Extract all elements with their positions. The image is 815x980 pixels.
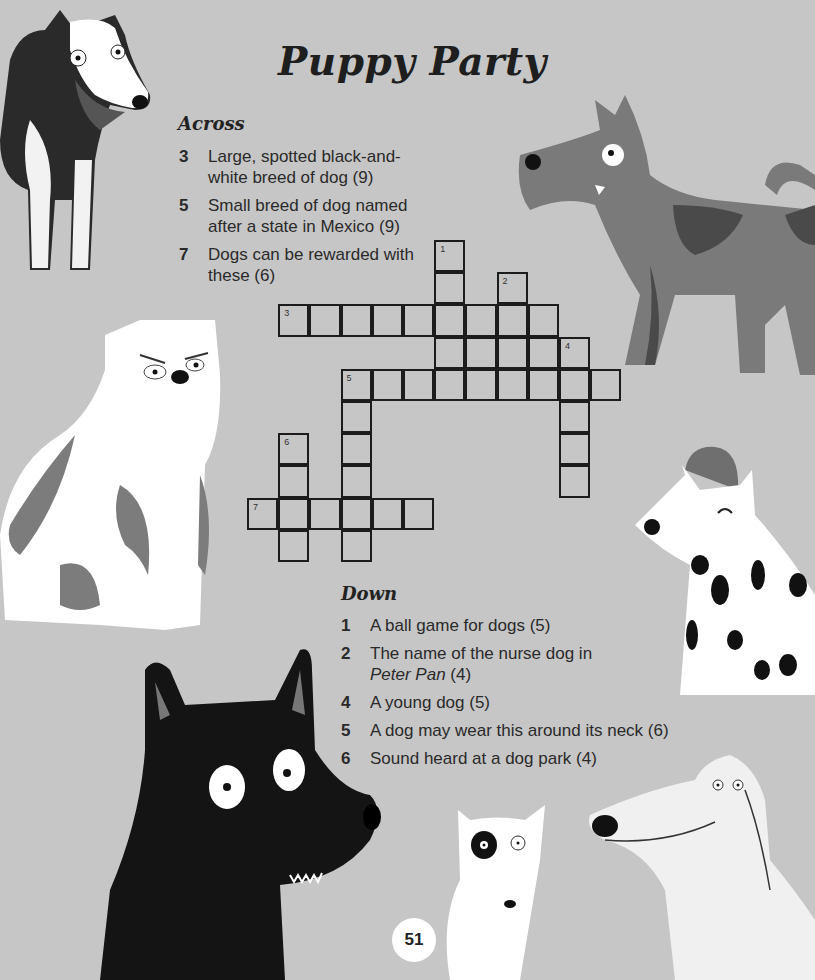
crossword-cell[interactable] xyxy=(341,530,372,562)
crossword-cell[interactable]: 4 xyxy=(559,337,590,369)
page-number-badge: 51 xyxy=(392,918,436,962)
down-clue-2: 2 The name of the nurse dog in Peter Pan… xyxy=(341,643,681,685)
cell-clue-number: 5 xyxy=(347,373,352,383)
crossword-cell[interactable]: 3 xyxy=(278,304,309,336)
clue-number: 2 xyxy=(341,643,370,685)
clue-text: A ball game for dogs (5) xyxy=(370,615,550,636)
across-clue-5: 5 Small breed of dog named after a state… xyxy=(179,195,424,237)
cell-clue-number: 4 xyxy=(565,341,570,351)
crossword-cell[interactable] xyxy=(434,369,465,401)
crossword-cell[interactable] xyxy=(559,433,590,465)
bulldog-illustration xyxy=(0,315,225,635)
clue-text-prefix: The name of the nurse dog in xyxy=(370,644,592,663)
crossword-cell[interactable] xyxy=(278,465,309,497)
crossword-cell[interactable] xyxy=(341,465,372,497)
crossword-cell[interactable] xyxy=(559,369,590,401)
clue-text: Large, spotted black-and-white breed of … xyxy=(208,146,424,188)
clue-number: 7 xyxy=(179,244,208,286)
clue-text: A young dog (5) xyxy=(370,692,490,713)
crossword-cell[interactable] xyxy=(341,498,372,530)
crossword-cell[interactable] xyxy=(528,369,559,401)
clue-number: 4 xyxy=(341,692,370,713)
crossword-cell[interactable] xyxy=(403,369,434,401)
crossword-cell[interactable] xyxy=(434,272,465,304)
crossword-cell[interactable] xyxy=(497,337,528,369)
clue-number: 6 xyxy=(341,748,370,769)
crossword-cell[interactable] xyxy=(559,401,590,433)
clue-text-italic-title: Peter Pan xyxy=(370,665,446,684)
down-clue-1: 1 A ball game for dogs (5) xyxy=(341,615,681,636)
crossword-cell[interactable] xyxy=(434,337,465,369)
crossword-cell[interactable] xyxy=(278,498,309,530)
bull-terrier-dog-illustration xyxy=(440,800,560,980)
crossword-cell[interactable] xyxy=(403,304,434,336)
crossword-grid: 1234567 xyxy=(248,241,623,564)
cell-clue-number: 6 xyxy=(284,437,289,447)
crossword-cell[interactable] xyxy=(465,304,496,336)
clue-number: 3 xyxy=(179,146,208,188)
crossword-cell[interactable] xyxy=(497,369,528,401)
down-clue-list: 1 A ball game for dogs (5) 2 The name of… xyxy=(341,615,681,776)
crossword-cell[interactable] xyxy=(434,304,465,336)
cell-clue-number: 1 xyxy=(440,244,445,254)
clue-text: Sound heard at a dog park (4) xyxy=(370,748,597,769)
clue-text: Small breed of dog named after a state i… xyxy=(208,195,424,237)
across-clue-3: 3 Large, spotted black-and-white breed o… xyxy=(179,146,424,188)
crossword-cell[interactable] xyxy=(278,530,309,562)
clue-text: A dog may wear this around its neck (6) xyxy=(370,720,669,741)
down-clue-4: 4 A young dog (5) xyxy=(341,692,681,713)
crossword-cell[interactable]: 6 xyxy=(278,433,309,465)
clue-number: 5 xyxy=(179,195,208,237)
hound-dog-illustration xyxy=(585,740,815,980)
clue-text: The name of the nurse dog in Peter Pan (… xyxy=(370,643,592,685)
down-heading: Down xyxy=(341,583,397,604)
crossword-cell[interactable] xyxy=(497,304,528,336)
across-heading: Across xyxy=(178,113,245,134)
crossword-cell[interactable] xyxy=(528,337,559,369)
crossword-cell[interactable] xyxy=(309,498,340,530)
page-title: Puppy Party xyxy=(278,38,547,84)
down-clue-5: 5 A dog may wear this around its neck (6… xyxy=(341,720,681,741)
collie-dog-illustration xyxy=(0,0,160,275)
crossword-cell[interactable] xyxy=(372,498,403,530)
crossword-cell[interactable]: 5 xyxy=(341,369,372,401)
crossword-cell[interactable]: 7 xyxy=(247,498,278,530)
clue-number: 5 xyxy=(341,720,370,741)
clue-number: 1 xyxy=(341,615,370,636)
down-clue-6: 6 Sound heard at a dog park (4) xyxy=(341,748,681,769)
crossword-cell[interactable] xyxy=(341,401,372,433)
crossword-cell[interactable] xyxy=(309,304,340,336)
crossword-cell[interactable] xyxy=(590,369,621,401)
clue-text-suffix: (4) xyxy=(446,665,472,684)
crossword-cell[interactable] xyxy=(403,498,434,530)
cell-clue-number: 2 xyxy=(503,276,508,286)
crossword-cell[interactable] xyxy=(528,304,559,336)
cell-clue-number: 3 xyxy=(284,308,289,318)
crossword-cell[interactable] xyxy=(372,304,403,336)
crossword-cell[interactable]: 2 xyxy=(497,272,528,304)
crossword-cell[interactable] xyxy=(559,465,590,497)
crossword-cell[interactable] xyxy=(341,304,372,336)
crossword-cell[interactable] xyxy=(372,369,403,401)
crossword-cell[interactable] xyxy=(341,433,372,465)
crossword-cell[interactable]: 1 xyxy=(434,240,465,272)
cell-clue-number: 7 xyxy=(253,502,258,512)
crossword-cell[interactable] xyxy=(465,369,496,401)
crossword-cell[interactable] xyxy=(465,337,496,369)
